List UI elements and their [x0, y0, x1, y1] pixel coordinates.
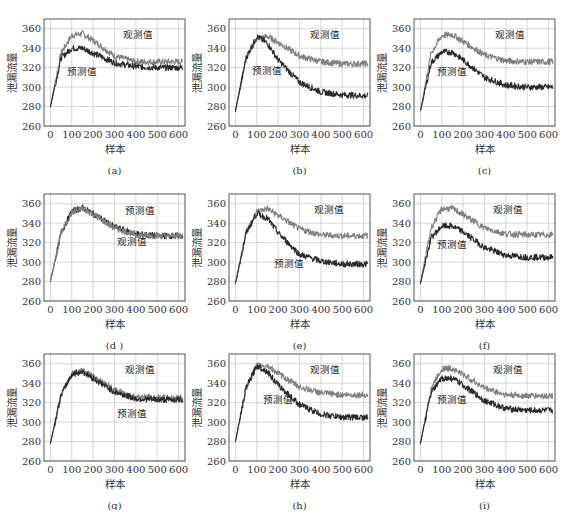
- subplot-i: 观测值预测值2602803003203403600100200300400500…: [370, 335, 558, 510]
- series-label: 观测值: [310, 364, 340, 375]
- y-tick-label: 280: [392, 436, 411, 447]
- x-tick-label: 400: [311, 129, 330, 140]
- line-chart: 预测值观测值2602803003203403600100200300400500…: [0, 175, 188, 350]
- subplot-e: 观测值预测值2602803003203403600100200300400500…: [185, 175, 373, 350]
- y-tick-label: 260: [22, 456, 41, 467]
- y-tick-label: 280: [22, 276, 41, 287]
- line-chart: 观测值预测值2602803003203403600100200300400500…: [185, 0, 373, 175]
- subplot-b: 观测值预测值2602803003203403600100200300400500…: [185, 0, 373, 175]
- series-label: 观测值: [493, 364, 523, 375]
- predicted-series: [420, 223, 553, 284]
- subplot-g: 观测值预测值2602803003203403600100200300400500…: [0, 335, 188, 510]
- y-tick-label: 320: [207, 397, 226, 408]
- x-tick-label: 300: [290, 464, 309, 475]
- x-tick-label: 200: [269, 304, 288, 315]
- x-tick-label: 400: [126, 129, 145, 140]
- x-tick-label: 0: [232, 464, 238, 475]
- x-tick-label: 500: [518, 464, 537, 475]
- x-axis-label: 样本: [105, 318, 126, 330]
- x-tick-label: 500: [333, 304, 352, 315]
- series-label: 预测值: [125, 205, 155, 216]
- x-tick-label: 100: [432, 304, 451, 315]
- x-tick-label: 0: [47, 304, 53, 315]
- x-axis-label: 样本: [290, 318, 311, 330]
- x-tick-label: 200: [84, 304, 103, 315]
- y-tick-label: 300: [22, 82, 41, 93]
- x-tick-label: 0: [417, 129, 423, 140]
- y-tick-label: 320: [207, 237, 226, 248]
- x-tick-label: 200: [84, 464, 103, 475]
- y-tick-label: 300: [392, 257, 411, 268]
- x-tick-label: 500: [333, 464, 352, 475]
- y-tick-label: 340: [392, 378, 411, 389]
- subplot-caption: (a): [108, 165, 122, 175]
- x-tick-label: 200: [454, 464, 473, 475]
- x-axis-label: 样本: [105, 143, 126, 155]
- predicted-series: [50, 370, 183, 444]
- series-label: 观测值: [123, 29, 153, 40]
- y-tick-label: 360: [207, 23, 226, 34]
- y-tick-label: 360: [392, 198, 411, 209]
- x-tick-label: 200: [84, 129, 103, 140]
- x-tick-label: 500: [518, 129, 537, 140]
- series-label: 观测值: [314, 204, 344, 215]
- observed-series: [50, 368, 183, 444]
- x-tick-label: 300: [290, 129, 309, 140]
- x-tick-label: 100: [62, 129, 81, 140]
- subplot-caption: (h): [292, 500, 306, 510]
- y-axis-label: 泄漏流量: [191, 387, 203, 428]
- y-tick-label: 340: [22, 218, 41, 229]
- y-tick-label: 280: [22, 436, 41, 447]
- x-tick-label: 400: [126, 304, 145, 315]
- y-tick-label: 340: [392, 43, 411, 54]
- y-tick-label: 300: [207, 257, 226, 268]
- line-chart: 观测值预测值2602803003203403600100200300400500…: [0, 0, 188, 175]
- y-tick-label: 320: [22, 237, 41, 248]
- line-chart: 观测值预测值2602803003203403600100200300400500…: [370, 0, 558, 175]
- y-tick-label: 260: [392, 296, 411, 307]
- x-tick-label: 300: [475, 129, 494, 140]
- subplot-caption: (c): [478, 165, 492, 175]
- line-chart: 观测值预测值2602803003203403600100200300400500…: [185, 175, 373, 350]
- x-axis-label: 样本: [290, 143, 311, 155]
- x-tick-label: 400: [126, 464, 145, 475]
- y-tick-label: 300: [392, 82, 411, 93]
- x-axis-label: 样本: [105, 478, 126, 490]
- series-label: 观测值: [493, 204, 523, 215]
- line-chart: 观测值预测值2602803003203403600100200300400500…: [370, 175, 558, 350]
- subplot-caption: (b): [292, 165, 306, 175]
- y-tick-label: 340: [22, 378, 41, 389]
- y-tick-label: 280: [392, 101, 411, 112]
- x-tick-label: 100: [432, 129, 451, 140]
- y-tick-label: 300: [207, 417, 226, 428]
- y-tick-label: 360: [392, 358, 411, 369]
- line-chart: 观测值预测值2602803003203403600100200300400500…: [185, 335, 373, 510]
- y-tick-label: 280: [207, 101, 226, 112]
- x-tick-label: 500: [148, 464, 167, 475]
- grid: [44, 194, 185, 301]
- subplot-d: 预测值观测值2602803003203403600100200300400500…: [0, 175, 188, 350]
- line-chart: 观测值预测值2602803003203403600100200300400500…: [0, 335, 188, 510]
- observed-series: [420, 366, 553, 444]
- subplot-f: 观测值预测值2602803003203403600100200300400500…: [370, 175, 558, 350]
- grid: [414, 19, 555, 126]
- x-tick-label: 0: [47, 129, 53, 140]
- y-axis-label: 泄漏流量: [191, 227, 203, 268]
- x-tick-label: 0: [232, 129, 238, 140]
- y-tick-label: 360: [22, 358, 41, 369]
- grid: [414, 354, 555, 461]
- x-tick-label: 300: [105, 464, 124, 475]
- series-label: 观测值: [495, 29, 525, 40]
- series-label: 预测值: [437, 394, 467, 405]
- series-label: 预测值: [437, 66, 467, 77]
- y-axis-label: 泄漏流量: [376, 52, 388, 93]
- y-tick-label: 360: [22, 198, 41, 209]
- y-tick-label: 300: [207, 82, 226, 93]
- y-tick-label: 340: [207, 378, 226, 389]
- subplot-a: 观测值预测值2602803003203403600100200300400500…: [0, 0, 188, 175]
- subplot-caption: (i): [479, 500, 490, 510]
- x-axis-label: 样本: [475, 478, 496, 490]
- x-tick-label: 300: [105, 304, 124, 315]
- x-axis-label: 样本: [475, 318, 496, 330]
- x-tick-label: 400: [311, 304, 330, 315]
